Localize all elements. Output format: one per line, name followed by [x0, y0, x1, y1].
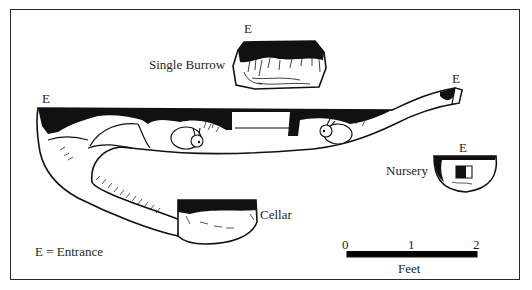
scale-tick-0: 0 — [342, 238, 349, 251]
scale-tick-1: 1 — [408, 238, 415, 251]
single-burrow-label: Single Burrow — [149, 58, 225, 71]
burrow-diagram-figure: E Single Burrow E E E Nursery Cellar E =… — [0, 0, 532, 290]
legend-entrance: E = Entrance — [35, 245, 103, 258]
single-burrow-chamber — [233, 41, 326, 89]
scale-tick-2: 2 — [473, 238, 480, 251]
nursery-label: Nursery — [386, 164, 428, 177]
cellar-chamber — [178, 200, 257, 244]
cellar-label: Cellar — [260, 208, 292, 221]
entrance-marker-main-right: E — [452, 72, 460, 85]
entrance-marker-nursery: E — [459, 141, 467, 154]
scale-unit-label: Feet — [398, 262, 420, 275]
entrance-marker-single-burrow: E — [244, 22, 252, 35]
nursery-chamber — [434, 156, 496, 192]
entrance-marker-main-left: E — [42, 92, 50, 105]
